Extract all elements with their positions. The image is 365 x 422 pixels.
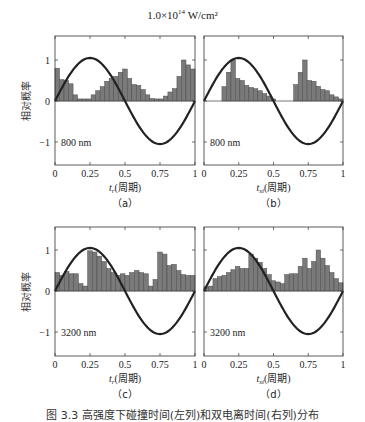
histogram-bar <box>69 84 74 101</box>
histogram-bar <box>139 273 144 291</box>
histogram-bar <box>330 273 334 291</box>
x-tick-label: 0.5 <box>267 168 280 179</box>
histogram-bar <box>208 286 212 291</box>
histogram-bar <box>334 279 338 291</box>
histogram-bar <box>78 284 83 291</box>
panel-letter: （c） <box>112 389 138 400</box>
histogram-bar <box>226 273 230 291</box>
histogram-bar <box>303 258 307 291</box>
histogram-bar <box>83 286 88 291</box>
histogram-bar <box>312 261 316 291</box>
y-tick-label: 1 <box>45 245 50 256</box>
histogram-bar <box>136 85 141 101</box>
histogram-bar <box>111 273 116 291</box>
histogram-bar <box>134 271 139 292</box>
histogram-bar <box>91 95 96 101</box>
wavelength-label: 800 nm <box>61 137 92 148</box>
histogram-bar <box>125 275 130 291</box>
histogram-bar <box>330 95 334 101</box>
histogram-bar <box>186 65 191 101</box>
x-tick-label: 0.5 <box>119 359 132 370</box>
histogram-bar <box>217 277 221 291</box>
x-tick-label: 0.75 <box>151 359 169 370</box>
x-tick-label: 0.75 <box>300 168 318 179</box>
histogram-bar <box>177 76 182 101</box>
histogram-bar <box>88 251 93 291</box>
histogram-bar <box>235 266 239 291</box>
x-tick-label: 0 <box>53 168 58 179</box>
panel-letter: （b） <box>260 198 286 209</box>
histogram-bar <box>289 274 293 291</box>
x-tick-label: 0.25 <box>81 359 99 370</box>
panel-c: 00.250.50.751−1013200 nmtr(周期)（c）相对概率 <box>20 227 198 400</box>
y-tick-label: 0 <box>45 96 50 107</box>
histogram-bar <box>158 252 163 291</box>
x-tick-label: 0 <box>202 168 207 179</box>
histogram-bar <box>181 60 186 101</box>
x-tick-label: 0.25 <box>81 168 99 179</box>
histogram-bar <box>163 96 168 101</box>
histogram-bar <box>321 258 325 291</box>
panel-b: 00.250.50.751800 nmtsi(周期)（b） <box>202 36 346 209</box>
y-tick-label: 1 <box>45 55 50 66</box>
histogram-bar <box>145 95 150 101</box>
histogram-bar <box>339 283 343 291</box>
histogram-bar <box>92 252 97 291</box>
x-axis-label: tsi(周期) <box>256 373 290 386</box>
histogram-bar <box>167 266 172 291</box>
histogram-bar <box>222 275 226 291</box>
histogram-bar <box>130 273 135 291</box>
histogram-bar <box>162 254 167 291</box>
histogram-bar <box>249 87 253 101</box>
histogram-bar <box>69 274 74 291</box>
panel-d: 00.250.50.7513200 nmtsi(周期)（d） <box>202 227 346 400</box>
histogram-bar <box>186 275 191 291</box>
y-tick-label: −1 <box>39 137 50 148</box>
x-tick-label: 0.5 <box>119 168 132 179</box>
histogram-bar <box>74 274 79 291</box>
figure-caption: 图 3.3 高强度下碰撞时间(左列)和双电离时间(右列)分布 <box>0 406 365 422</box>
histogram-bar <box>172 89 177 101</box>
histogram-bar <box>325 266 329 291</box>
histogram-bar <box>312 81 316 101</box>
panel-a: 00.250.50.751−101800 nmtr(周期)（a）相对概率 <box>20 36 198 209</box>
histogram-bar <box>226 72 230 101</box>
histogram-bar <box>97 256 102 291</box>
x-tick-label: 1 <box>341 168 346 179</box>
x-tick-label: 1 <box>193 359 198 370</box>
histogram-bar <box>240 81 244 102</box>
x-tick-label: 0.75 <box>300 359 318 370</box>
y-axis-label: 相对概率 <box>20 272 32 312</box>
histogram-bar <box>109 78 114 101</box>
y-tick-label: −1 <box>39 327 50 338</box>
histogram-bar <box>231 60 235 101</box>
histogram-bar <box>262 94 266 101</box>
wavelength-label: 3200 nm <box>61 327 97 338</box>
x-tick-label: 1 <box>341 359 346 370</box>
histogram-bar <box>235 78 239 101</box>
histogram-bar <box>102 261 107 291</box>
histogram-bar <box>316 250 320 291</box>
histogram-bar <box>285 275 289 291</box>
histogram-bar <box>231 270 235 291</box>
x-tick-label: 0.25 <box>230 359 248 370</box>
histogram-bar <box>127 78 132 101</box>
histogram-bar <box>244 85 248 101</box>
histogram-bar <box>258 91 262 101</box>
histogram-bars <box>222 60 343 101</box>
histogram-bar <box>280 284 284 291</box>
histogram-bar <box>96 91 101 101</box>
histogram-bar <box>325 91 329 101</box>
histogram-bar <box>176 271 181 292</box>
wavelength-label: 3200 nm <box>210 327 246 338</box>
histogram-bar <box>168 92 173 101</box>
histogram-bar <box>141 90 146 101</box>
histogram-bar <box>298 266 302 291</box>
x-axis-label: tr(周期) <box>109 373 141 386</box>
histogram-bar <box>240 268 244 291</box>
histogram-bar <box>181 275 186 291</box>
panel-letter: （d） <box>260 389 286 400</box>
histogram-bar <box>106 268 111 291</box>
x-axis-label: tsi(周期) <box>256 182 290 195</box>
